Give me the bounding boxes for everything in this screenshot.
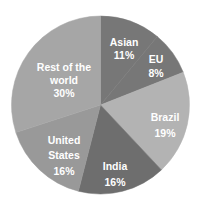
pie-chart: Asian 11% EU 8% Brazil 19% India 16% Uni…: [0, 0, 198, 208]
label-eu-name: EU: [149, 53, 164, 65]
label-brazil-pct: 19%: [154, 127, 176, 139]
label-us-pct: 16%: [53, 165, 75, 177]
pie-slices: [11, 16, 189, 194]
label-us-line1: United: [48, 134, 81, 146]
label-eu-pct: 8%: [148, 67, 164, 79]
label-us-line2: States: [48, 149, 80, 161]
pie-svg: Asian 11% EU 8% Brazil 19% India 16% Uni…: [0, 0, 198, 208]
label-rest-pct: 30%: [53, 87, 75, 99]
label-asian-name: Asian: [110, 36, 139, 48]
slice-label-asian: Asian 11%: [110, 36, 139, 61]
label-brazil-name: Brazil: [151, 111, 180, 123]
label-rest-line2: world: [49, 74, 78, 86]
label-rest-line1: Rest of the: [37, 61, 91, 73]
label-india-name: India: [103, 160, 128, 172]
label-asian-pct: 11%: [114, 49, 135, 61]
label-india-pct: 16%: [104, 176, 126, 188]
